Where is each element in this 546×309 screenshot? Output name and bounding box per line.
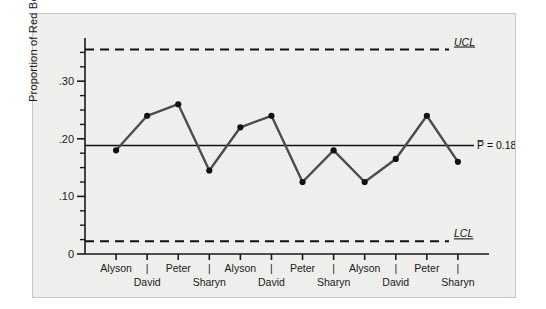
x-tick-label: Peter	[290, 262, 316, 274]
x-label-separator: |	[332, 262, 335, 274]
data-point	[362, 179, 368, 185]
x-tick-label: Sharyn	[317, 276, 350, 288]
x-tick-label: David	[258, 276, 285, 288]
x-axis-tick-labels: AlysonDavidPeterSharynAlysonDavidPeterSh…	[100, 262, 474, 288]
series-markers	[113, 101, 461, 185]
x-tick-label: Peter	[166, 262, 192, 274]
data-point	[331, 147, 337, 153]
x-tick-label: Peter	[414, 262, 440, 274]
series-line	[116, 104, 458, 182]
y-tick-label: 0	[68, 248, 74, 260]
chart-figure: Proportion of Red Beads .30 .20 .10 0	[0, 0, 546, 309]
data-point	[455, 159, 461, 165]
x-tick-label: David	[382, 276, 409, 288]
data-point	[393, 156, 399, 162]
center-line-label: P̅ = 0.1883	[476, 139, 515, 151]
data-point	[268, 113, 274, 119]
data-point	[237, 124, 243, 130]
x-axis-ticks	[116, 254, 458, 260]
x-label-separator: |	[146, 262, 149, 274]
data-point	[113, 147, 119, 153]
x-tick-label: Alyson	[349, 262, 381, 274]
ucl-label: UCL	[454, 36, 475, 48]
x-tick-label: Sharyn	[441, 276, 474, 288]
x-label-separator: |	[457, 262, 460, 274]
x-label-separator: |	[270, 262, 273, 274]
data-point	[299, 179, 305, 185]
y-tick-label: .30	[59, 75, 74, 87]
x-tick-label: Alyson	[100, 262, 132, 274]
x-label-separator: |	[208, 262, 211, 274]
lcl-label: LCL	[454, 227, 473, 239]
data-point	[206, 167, 212, 173]
x-tick-label: Sharyn	[193, 276, 226, 288]
y-tick-label: .20	[59, 133, 74, 145]
y-tick-label: .10	[59, 190, 74, 202]
chart-panel: Proportion of Red Beads .30 .20 .10 0	[32, 13, 516, 298]
x-tick-label: David	[134, 276, 161, 288]
x-tick-label: Alyson	[225, 262, 257, 274]
control-chart-plot: .30 .20 .10 0	[33, 14, 515, 297]
data-point	[424, 113, 430, 119]
data-point	[175, 101, 181, 107]
x-label-separator: |	[394, 262, 397, 274]
data-point	[144, 113, 150, 119]
